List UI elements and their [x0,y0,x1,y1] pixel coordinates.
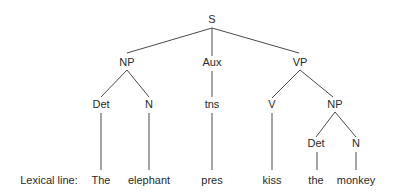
node-np: NP [119,56,134,68]
edge-s-vp [212,28,299,53]
word-the-object: the [308,174,323,186]
edge-vp-v [272,70,300,98]
word-the: The [92,174,111,186]
edge-np-det [101,70,127,97]
edge-s-np [127,28,212,53]
tree-nodes: S NP Aux VP Det N tns V NP Det N [92,13,360,149]
node-v: V [268,98,276,110]
lexical-line: Lexical line: The elephant pres kiss the… [20,174,375,186]
node-aux: Aux [203,56,222,68]
node-vp: VP [293,56,308,68]
edge-vp-np [300,70,333,97]
word-monkey: monkey [337,174,376,186]
word-elephant: elephant [128,174,170,186]
node-n-object: N [352,137,360,149]
lexical-line-label: Lexical line: [20,174,77,186]
node-det-object: Det [307,137,324,149]
node-s: S [208,13,215,25]
edge-np-n [127,70,149,97]
word-pres: pres [201,174,223,186]
word-kiss: kiss [263,174,282,186]
node-n: N [145,98,153,110]
edge-np2-n [335,112,356,137]
node-np-object: NP [327,98,342,110]
edge-np2-det [316,112,335,137]
node-det: Det [92,98,109,110]
syntax-tree: S NP Aux VP Det N tns V NP Det N Lexical… [0,0,396,193]
node-tns: tns [205,98,220,110]
